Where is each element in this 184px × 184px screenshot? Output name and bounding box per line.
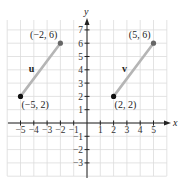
y-axis-arrow-icon (85, 18, 90, 25)
vector-u-start-point (18, 94, 23, 99)
x-tick-label: −3 (42, 125, 52, 135)
x-tick-label: 1 (98, 125, 103, 135)
x-tick-label: −2 (55, 125, 65, 135)
y-tick-label: −3 (73, 158, 83, 168)
y-tick-label: −1 (73, 132, 83, 142)
vector-v-start-label: (2, 2) (115, 99, 137, 111)
y-tick-label: 4 (78, 65, 83, 75)
axes (8, 18, 171, 178)
y-tick-label: −2 (73, 145, 83, 155)
y-tick-label: 6 (78, 39, 83, 49)
x-axis-label: x (172, 117, 178, 128)
x-axis-arrow-icon (164, 121, 171, 126)
y-axis-label: y (83, 6, 89, 17)
vector-v-start-point (111, 94, 116, 99)
y-tick-label: 1 (78, 105, 83, 115)
y-tick-label: 2 (78, 92, 83, 102)
vector-u-start-label: (−5, 2) (22, 99, 49, 111)
x-tick-label: −5 (15, 125, 25, 135)
x-tick-label: 4 (138, 125, 143, 135)
y-tick-label: 5 (78, 52, 83, 62)
vector-u-end-label: (−2, 6) (30, 29, 57, 41)
x-tick-label: −4 (29, 125, 39, 135)
y-tick-label: 7 (78, 25, 83, 35)
coordinate-plane: −5−4−3−2−1123457654321−1−2−3 (−5, 2)(−2,… (0, 0, 184, 184)
vector-v-end-label: (5, 6) (129, 29, 151, 41)
x-tick-label: 2 (111, 125, 116, 135)
vector-v-name: v (122, 63, 127, 74)
vector-u-end-point (58, 41, 63, 46)
x-tick-label: 3 (125, 125, 130, 135)
vector-u-name: u (29, 63, 35, 74)
x-tick-label: 5 (151, 125, 156, 135)
y-tick-label: 3 (78, 79, 83, 89)
vector-v-end-point (151, 41, 156, 46)
